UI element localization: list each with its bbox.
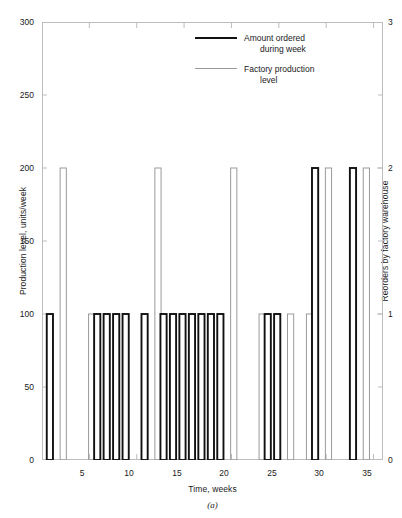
legend-swatch-factory-production	[195, 68, 237, 69]
y2-tick-label-0: 0	[388, 455, 402, 465]
legend-item-amount-ordered: Amount ordered during week	[195, 33, 370, 55]
x-tick-label-35: 35	[352, 468, 382, 478]
legend-label-line2: during week	[244, 44, 370, 55]
y-tick-label-50: 50	[6, 382, 34, 392]
legend-item-factory-production: Factory production level	[195, 64, 370, 86]
legend-label-line1: Amount ordered	[244, 33, 305, 43]
y-tick-label-300: 300	[6, 17, 34, 27]
chart-legend: Amount ordered during week Factory produ…	[195, 33, 370, 95]
figure-caption: (a)	[42, 500, 383, 510]
legend-label-amount-ordered: Amount ordered during week	[244, 33, 370, 55]
x-tick-label-5: 5	[67, 468, 97, 478]
x-tick-label-10: 10	[114, 468, 144, 478]
x-tick-label-20: 20	[209, 468, 239, 478]
y-tick-label-0: 0	[6, 455, 34, 465]
legend-label-line2: level	[244, 75, 370, 86]
y2-tick-label-3: 3	[388, 17, 402, 27]
legend-swatch-amount-ordered	[195, 37, 237, 39]
figure-container: 300 250 200 150 100 50 0 3 2 1 0 5 10 15…	[0, 0, 402, 518]
x-axis-title: Time, weeks	[42, 484, 383, 494]
x-tick-label-30: 30	[304, 468, 334, 478]
legend-label-line1: Factory production	[244, 64, 314, 74]
y2-tick-label-2: 2	[388, 163, 402, 173]
x-tick-label-15: 15	[162, 468, 192, 478]
y2-tick-label-1: 1	[388, 309, 402, 319]
legend-label-factory-production: Factory production level	[244, 64, 370, 86]
x-tick-label-25: 25	[257, 468, 287, 478]
y-axis-title: Production level, units/week	[18, 156, 28, 326]
y-tick-label-250: 250	[6, 90, 34, 100]
